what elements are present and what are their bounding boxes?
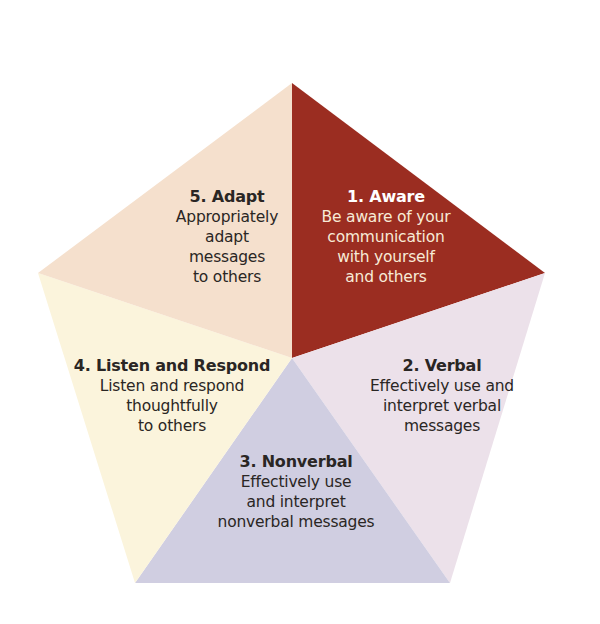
nonverbal-description: Effectively use and interpret nonverbal …	[196, 472, 396, 532]
adapt-title: 5. Adapt	[157, 187, 297, 207]
communication-pentagon-diagram: 1. Aware Be aware of your communication …	[0, 0, 600, 624]
label-listen-respond: 4. Listen and Respond Listen and respond…	[72, 356, 272, 436]
aware-title: 1. Aware	[296, 187, 476, 207]
verbal-description: Effectively use and interpret verbal mes…	[352, 376, 532, 436]
label-adapt: 5. Adapt Appropriately adapt messages to…	[157, 187, 297, 287]
label-aware: 1. Aware Be aware of your communication …	[296, 187, 476, 287]
listen-title: 4. Listen and Respond	[72, 356, 272, 376]
listen-description: Listen and respond thoughtfully to other…	[72, 376, 272, 436]
adapt-description: Appropriately adapt messages to others	[157, 207, 297, 287]
aware-description: Be aware of your communication with your…	[296, 207, 476, 287]
label-verbal: 2. Verbal Effectively use and interpret …	[352, 356, 532, 436]
nonverbal-title: 3. Nonverbal	[196, 452, 396, 472]
label-nonverbal: 3. Nonverbal Effectively use and interpr…	[196, 452, 396, 532]
verbal-title: 2. Verbal	[352, 356, 532, 376]
